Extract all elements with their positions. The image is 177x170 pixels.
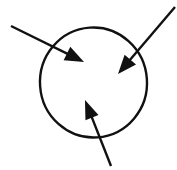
diagram-canvas bbox=[0, 0, 177, 170]
arrow-top-right-shaft bbox=[128, 7, 175, 62]
diagram-svg bbox=[0, 0, 177, 170]
arrow-bottom bbox=[85, 100, 111, 166]
arrow-top-left-head bbox=[64, 47, 84, 62]
arrow-bottom-shaft bbox=[91, 115, 111, 166]
arrow-top-left-shaft bbox=[11, 26, 70, 55]
arrow-bottom-head bbox=[85, 100, 98, 120]
